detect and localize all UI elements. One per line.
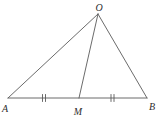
side-ob-line: [98, 14, 147, 98]
vertex-label-a: A: [1, 103, 9, 114]
vertex-label-o: O: [95, 2, 102, 13]
side-oa-line: [8, 14, 98, 98]
median-om-line: [79, 14, 98, 98]
point-label-m: M: [73, 106, 83, 117]
triangle-diagram: O A B M: [0, 0, 158, 131]
geometry-figure: O A B M: [0, 0, 158, 131]
vertex-label-b: B: [149, 101, 155, 112]
